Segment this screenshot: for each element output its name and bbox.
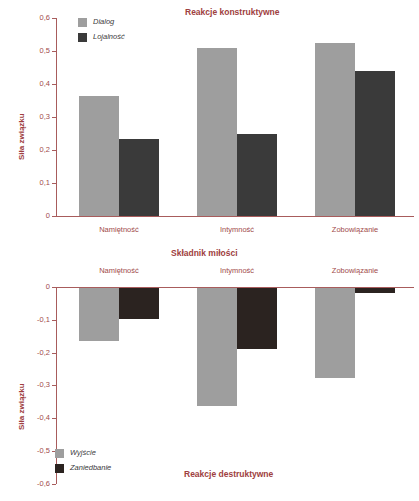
top-category-label-zobowiazanie: Zobowiązanie	[313, 226, 397, 234]
bottom-category-label-zobowiazanie: Zobowiązanie	[313, 267, 397, 275]
legend-item-wyjscie: Wyjście	[55, 447, 111, 459]
two-panel-bar-chart-figure: Reakcje konstruktywne Siła związku Dialo…	[0, 0, 419, 501]
bottom-chart-y-axis-title: Siła związku	[18, 383, 26, 430]
bottom-chart-title: Reakcje destruktywne	[184, 470, 273, 479]
legend-label-wyjscie: Wyjście	[70, 449, 96, 457]
legend-label-dialog: Dialog	[93, 18, 114, 26]
top-chart-legend: Dialog Lojalność	[78, 16, 125, 46]
bar-wyjscie-zobowiazanie	[315, 288, 355, 378]
top-tick-mark-0.6	[52, 18, 56, 19]
bottom-tick-label--0.2: -0,2	[20, 349, 50, 357]
bottom-tick-mark--0.6	[52, 484, 56, 485]
top-tick-mark-0.2	[52, 150, 56, 151]
top-tick-label-0.3: 0,3	[24, 113, 50, 121]
bar-wyjscie-namietnosc	[79, 288, 119, 341]
bar-lojalnosc-intymnosc	[237, 134, 277, 217]
legend-swatch-light-icon	[55, 449, 64, 458]
bottom-tick-mark--0.1	[52, 320, 56, 321]
bar-dialog-namietnosc	[79, 96, 119, 217]
top-category-label-namietnosc: Namiętność	[79, 226, 159, 234]
legend-swatch-dark-icon	[55, 464, 64, 473]
legend-item-dialog: Dialog	[78, 16, 125, 28]
top-tick-mark-0.4	[52, 84, 56, 85]
bottom-tick-label-0: 0	[24, 283, 50, 291]
top-tick-mark-0.3	[52, 117, 56, 118]
bottom-tick-mark--0.4	[52, 418, 56, 419]
bar-zaniedbanie-zobowiazanie	[355, 288, 395, 293]
bar-zaniedbanie-namietnosc	[119, 288, 159, 319]
bar-lojalnosc-zobowiazanie	[355, 71, 395, 216]
legend-item-lojalnosc: Lojalność	[78, 31, 125, 43]
bar-wyjscie-intymnosc	[197, 288, 237, 406]
bottom-chart-legend: Wyjście Zaniedbanie	[55, 447, 111, 477]
legend-swatch-dark-icon	[78, 33, 87, 42]
top-tick-label-0.1: 0,1	[24, 179, 50, 187]
bottom-tick-mark-0	[52, 287, 56, 288]
top-chart-y-axis-line	[56, 18, 57, 217]
bar-zaniedbanie-intymnosc	[237, 288, 277, 349]
bottom-tick-mark--0.2	[52, 353, 56, 354]
bottom-category-label-namietnosc: Namiętność	[79, 267, 159, 275]
top-tick-mark-0	[52, 216, 56, 217]
top-tick-label-0: 0	[24, 212, 50, 220]
legend-swatch-light-icon	[78, 18, 87, 27]
bottom-tick-label--0.1: -0,1	[20, 316, 50, 324]
bar-dialog-zobowiazanie	[315, 43, 355, 216]
legend-label-lojalnosc: Lojalność	[93, 33, 125, 41]
shared-x-axis-title: Składnik miłości	[171, 249, 238, 258]
top-chart-x-axis-line	[56, 216, 414, 217]
top-tick-label-0.5: 0,5	[24, 47, 50, 55]
bar-dialog-intymnosc	[197, 48, 237, 216]
top-tick-mark-0.1	[52, 183, 56, 184]
legend-label-zaniedbanie: Zaniedbanie	[70, 464, 111, 472]
top-category-label-intymnosc: Intymność	[197, 226, 277, 234]
bottom-tick-mark--0.3	[52, 385, 56, 386]
top-tick-label-0.2: 0,2	[24, 146, 50, 154]
bar-lojalnosc-namietnosc	[119, 139, 159, 217]
bottom-tick-label--0.6: -0,6	[20, 480, 50, 488]
bottom-category-label-intymnosc: Intymność	[197, 267, 277, 275]
top-chart-title: Reakcje konstruktywne	[185, 8, 279, 17]
bottom-tick-label--0.3: -0,3	[20, 381, 50, 389]
top-tick-mark-0.5	[52, 51, 56, 52]
top-tick-label-0.6: 0,6	[24, 14, 50, 22]
bottom-tick-label--0.4: -0,4	[20, 414, 50, 422]
legend-item-zaniedbanie: Zaniedbanie	[55, 462, 111, 474]
bottom-tick-label--0.5: -0,5	[20, 447, 50, 455]
top-tick-label-0.4: 0,4	[24, 80, 50, 88]
